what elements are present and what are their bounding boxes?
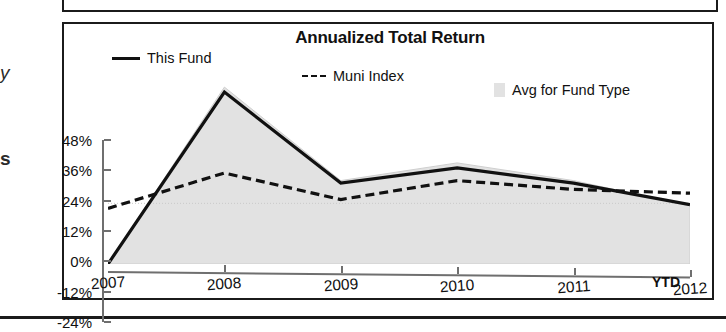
y-axis-label: 24% bbox=[38, 193, 92, 208]
y-axis: 48%36%24%12%0%-12%-24% bbox=[46, 140, 104, 322]
chart-title: Annualized Total Return bbox=[64, 28, 716, 48]
y-axis-label: 0% bbox=[38, 254, 92, 269]
panel-above-fragment bbox=[62, 0, 718, 12]
x-axis-label: 2011 bbox=[556, 277, 591, 297]
y-axis-tick bbox=[104, 139, 111, 141]
x-axis-label: 2009 bbox=[323, 275, 359, 295]
y-axis-label: 48% bbox=[38, 133, 92, 148]
y-axis-label: -24% bbox=[38, 315, 92, 330]
solid-line-key bbox=[112, 57, 140, 60]
x-axis-label: 2010 bbox=[439, 276, 475, 296]
x-axis: 200720082009201020112012 bbox=[108, 270, 708, 296]
dashed-line-key bbox=[302, 75, 326, 77]
y-axis-label: 12% bbox=[38, 224, 92, 239]
y-axis-label: 36% bbox=[38, 163, 92, 178]
legend-label-this-fund: This Fund bbox=[147, 50, 211, 66]
left-edge-text-fragment-2: s bbox=[0, 148, 11, 170]
plot-area: 48%36%24%12%0%-12%-24% bbox=[108, 82, 690, 264]
y-axis-tick bbox=[104, 230, 111, 232]
legend-item-this-fund: This Fund bbox=[112, 50, 211, 66]
annualized-total-return-chart: Annualized Total Return This Fund Muni I… bbox=[62, 22, 714, 300]
x-axis-label: 2007 bbox=[90, 273, 126, 293]
x-axis-ytd-label: YTD bbox=[652, 274, 680, 290]
x-axis-tick bbox=[224, 265, 226, 272]
chart-plot-svg bbox=[108, 82, 690, 264]
x-axis-tick bbox=[690, 270, 692, 277]
y-axis-tick bbox=[104, 321, 111, 323]
y-axis-label: -12% bbox=[38, 284, 92, 299]
y-axis-tick bbox=[104, 169, 111, 171]
panel-below-fragment bbox=[0, 316, 726, 332]
left-edge-text-fragment-1: y bbox=[0, 62, 10, 84]
y-axis-tick bbox=[104, 200, 111, 202]
x-axis-tick bbox=[341, 266, 343, 273]
x-axis-spine bbox=[108, 271, 690, 279]
x-axis-tick bbox=[574, 268, 576, 275]
x-axis-label: 2008 bbox=[207, 274, 243, 294]
y-axis-tick bbox=[104, 260, 111, 262]
x-axis-tick bbox=[457, 267, 459, 274]
